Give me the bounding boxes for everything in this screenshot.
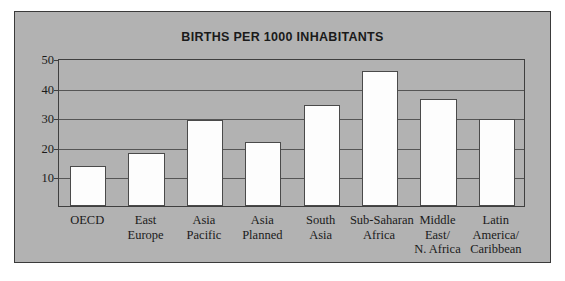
y-axis-tick-label: 40 (42, 83, 55, 96)
gridline-y-40 (59, 90, 524, 91)
x-axis-label-line: Africa (350, 228, 408, 243)
chart-figure: BIRTHS PER 1000 INHABITANTS 1020304050 O… (14, 11, 551, 263)
x-axis-label-line: East/ (408, 228, 466, 243)
y-axis-tick-label: 10 (42, 172, 55, 185)
x-axis-category-label: MiddleEast/N. Africa (408, 213, 466, 257)
bar (479, 119, 515, 206)
x-axis-category-label: LatinAmerica/Caribbean (467, 213, 525, 257)
x-axis-label-line: South (292, 213, 350, 228)
x-axis-label-line: Europe (116, 228, 174, 243)
bar (362, 71, 398, 206)
x-axis-category-label: Sub-SaharanAfrica (350, 213, 408, 242)
x-axis-label-line: East (116, 213, 174, 228)
y-tick-mark-50 (54, 60, 59, 61)
x-axis-label-line: Caribbean (467, 242, 525, 257)
plot-area: 1020304050 (58, 59, 525, 207)
x-axis-label-line: Asia (233, 213, 291, 228)
y-axis-tick-label: 50 (42, 54, 55, 67)
chart-title: BIRTHS PER 1000 INHABITANTS (15, 30, 550, 44)
y-tick-mark-10 (54, 178, 59, 179)
bar (304, 105, 340, 206)
bar (245, 142, 281, 206)
x-axis-label-line: Sub-Saharan (350, 213, 408, 228)
x-axis-label-line: Pacific (175, 228, 233, 243)
x-axis-label-line: N. Africa (408, 242, 466, 257)
x-axis-category-label: OECD (58, 213, 116, 228)
bar (420, 99, 456, 206)
y-axis-tick-label: 30 (42, 113, 55, 126)
bar (70, 166, 106, 206)
x-axis-label-line: Asia (175, 213, 233, 228)
x-axis-label-line: Latin (467, 213, 525, 228)
x-axis-label-line: Planned (233, 228, 291, 243)
x-axis-label-line: America/ (467, 228, 525, 243)
y-tick-mark-20 (54, 149, 59, 150)
x-axis-label-line: Middle (408, 213, 466, 228)
bar (187, 120, 223, 206)
y-axis-tick-label: 20 (42, 143, 55, 156)
x-axis-category-label: SouthAsia (292, 213, 350, 242)
y-tick-mark-30 (54, 119, 59, 120)
bar (128, 153, 164, 206)
x-axis-category-label: AsiaPlanned (233, 213, 291, 242)
x-axis-category-label: AsiaPacific (175, 213, 233, 242)
x-axis-label-line: Asia (292, 228, 350, 243)
x-axis-category-label: EastEurope (116, 213, 174, 242)
y-tick-mark-40 (54, 90, 59, 91)
x-axis-label-line: OECD (58, 213, 116, 228)
